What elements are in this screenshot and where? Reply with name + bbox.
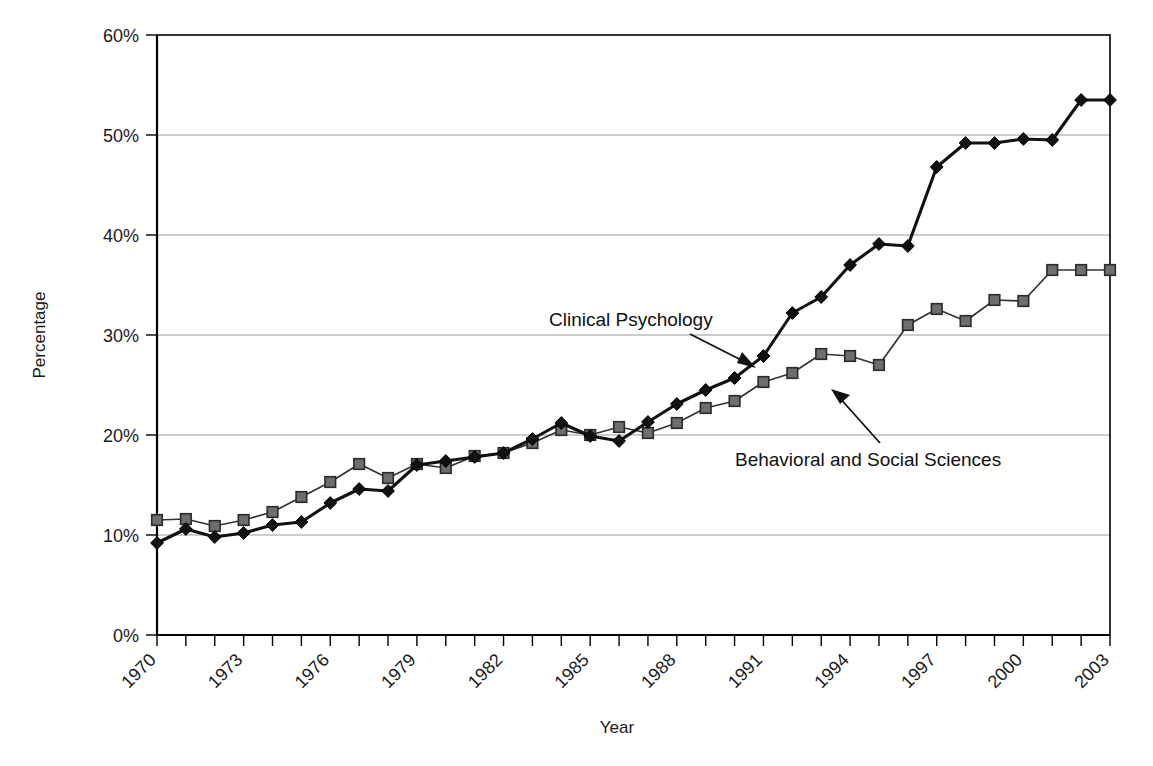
gridlines	[157, 135, 1110, 535]
annotation-behavioral-leader	[838, 396, 880, 443]
line-chart: 0%10%20%30%40%50%60% 1970197319761979198…	[0, 0, 1153, 766]
data-point	[237, 527, 250, 540]
data-point	[758, 377, 769, 388]
x-tick-label-1991: 1991	[724, 650, 766, 692]
data-point	[354, 459, 365, 470]
annotation-behavioral-social-sciences: Behavioral and Social Sciences	[735, 389, 1001, 470]
x-tick-label-1982: 1982	[464, 650, 506, 692]
annotation-behavioral-label: Behavioral and Social Sciences	[735, 449, 1001, 470]
data-point	[151, 537, 164, 550]
data-point	[325, 477, 336, 488]
annotation-clinical-psychology: Clinical Psychology	[549, 309, 756, 368]
x-tick-marks	[157, 635, 1110, 646]
annotation-clinical-arrowhead	[737, 352, 756, 368]
data-point	[208, 531, 221, 544]
data-point	[1076, 265, 1087, 276]
y-tick-label-50%: 50%	[103, 126, 139, 146]
y-tick-label-30%: 30%	[103, 326, 139, 346]
data-point	[267, 507, 278, 518]
series-behavioral-and-social-sciences	[152, 265, 1116, 532]
data-point	[152, 515, 163, 526]
x-tick-labels: 1970197319761979198219851988199119941997…	[117, 650, 1112, 692]
data-point	[238, 515, 249, 526]
data-point	[643, 428, 654, 439]
data-point	[209, 521, 220, 532]
x-tick-label-1970: 1970	[117, 650, 159, 692]
x-tick-label-1994: 1994	[810, 650, 852, 692]
y-tick-label-0%: 0%	[113, 626, 139, 646]
data-point	[960, 316, 971, 327]
data-point	[816, 349, 827, 360]
data-point	[1047, 265, 1058, 276]
x-tick-label-2003: 2003	[1070, 650, 1112, 692]
data-point	[1104, 94, 1117, 107]
y-tick-labels: 0%10%20%30%40%50%60%	[103, 26, 139, 646]
data-point	[672, 418, 683, 429]
annotation-behavioral-arrowhead	[831, 389, 850, 404]
data-point	[988, 137, 1001, 150]
x-tick-label-1997: 1997	[897, 650, 939, 692]
data-point	[353, 483, 366, 496]
data-point	[1105, 265, 1116, 276]
chart-figure: 0%10%20%30%40%50%60% 1970197319761979198…	[0, 0, 1153, 766]
x-axis-title: Year	[600, 718, 635, 737]
data-point	[700, 403, 711, 414]
x-tick-label-1979: 1979	[377, 650, 419, 692]
x-tick-label-1973: 1973	[204, 650, 246, 692]
y-tick-label-40%: 40%	[103, 226, 139, 246]
data-point	[383, 473, 394, 484]
data-point	[1018, 296, 1029, 307]
data-point	[787, 368, 798, 379]
x-tick-label-1988: 1988	[637, 650, 679, 692]
y-tick-label-20%: 20%	[103, 426, 139, 446]
annotation-clinical-label: Clinical Psychology	[549, 309, 713, 330]
data-point	[874, 360, 885, 371]
y-tick-label-60%: 60%	[103, 26, 139, 46]
data-point	[699, 384, 712, 397]
data-point	[989, 295, 1000, 306]
y-tick-label-10%: 10%	[103, 526, 139, 546]
x-tick-label-1985: 1985	[551, 650, 593, 692]
data-point	[296, 492, 307, 503]
data-point	[266, 519, 279, 532]
data-point	[903, 320, 914, 331]
data-point	[931, 304, 942, 315]
x-tick-label-2000: 2000	[984, 650, 1026, 692]
data-point	[614, 422, 625, 433]
data-point	[845, 351, 856, 362]
y-axis-title: Percentage	[30, 292, 49, 379]
data-point	[729, 396, 740, 407]
data-point	[901, 240, 914, 253]
x-tick-label-1976: 1976	[291, 650, 333, 692]
